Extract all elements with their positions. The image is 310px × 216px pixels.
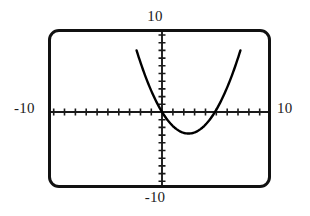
x-min-label: -10 — [14, 101, 35, 116]
parabola-curve — [137, 50, 241, 133]
graph-widget: 10 -10 -10 10 — [0, 0, 310, 216]
plot-area — [48, 29, 271, 188]
x-max-label: 10 — [277, 101, 292, 116]
y-max-label: 10 — [0, 9, 310, 24]
y-min-label: -10 — [0, 190, 310, 205]
